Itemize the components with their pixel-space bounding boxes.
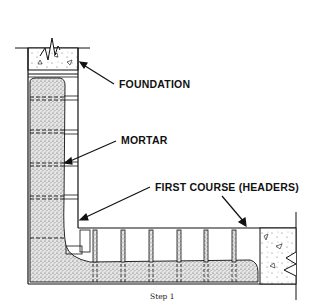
masonry-diagram xyxy=(0,0,326,307)
foundation-label: FOUNDATION xyxy=(119,78,190,90)
header-joints xyxy=(93,230,236,262)
vertical-brick-joints xyxy=(64,96,78,199)
vertical-wall xyxy=(15,38,258,284)
mortar-label: MORTAR xyxy=(121,134,168,146)
first-course-label: FIRST COURSE (HEADERS) xyxy=(155,181,299,193)
mortar-bed xyxy=(30,78,258,282)
figure-caption: Step 1 xyxy=(150,292,175,301)
